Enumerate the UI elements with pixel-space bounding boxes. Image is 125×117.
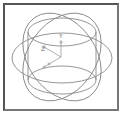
horizontal-ring[interactable] [12,33,112,83]
z-axis-line [44,47,61,57]
z-axis-label: Z [41,45,45,52]
right-tilted-ring[interactable] [7,0,118,116]
y-axis-label: Y [58,32,63,39]
orbit-gizmo[interactable]: Y Z [0,0,125,117]
x-axis-line [44,57,61,67]
